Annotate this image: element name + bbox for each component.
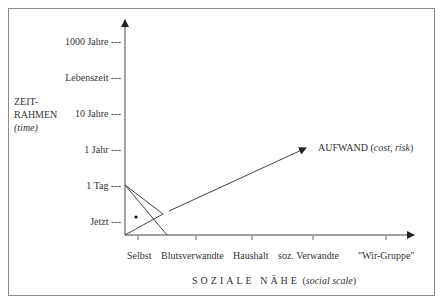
x-tick-haushalt: Haushalt [233, 250, 269, 261]
tag-line-steep [125, 185, 167, 235]
y-tick-1000-jahre: 1000 Jahre --- [65, 36, 121, 47]
cost-line-start [125, 214, 163, 235]
x-tick-wir-gruppe: "Wir-Gruppe" [358, 250, 414, 261]
y-tick-lebenszeit: Lebenszeit --- [65, 72, 121, 83]
x-axis-title-paren-close: ) [353, 275, 356, 286]
tag-line-shallow [125, 185, 163, 214]
self-dot [134, 215, 137, 218]
x-axis-ticks [138, 236, 386, 240]
x-axis-title-main: SOZIALE NÄHE [192, 275, 300, 286]
aufwand-label: AUFWAND (cost, risk) [318, 142, 413, 153]
y-tick-10-jahre: 10 Jahre --- [75, 108, 121, 119]
aufwand-cost: cost [374, 142, 390, 153]
x-tick-blutsverwandte: Blutsverwandte [161, 250, 224, 261]
x-tick-soz-verwandte: soz. Verwandte [278, 250, 339, 261]
aufwand-risk: risk [395, 142, 410, 153]
aufwand-close: ) [410, 142, 413, 153]
aufwand-main: AUFWAND ( [318, 142, 374, 153]
y-axis-title-1: ZEIT- [14, 96, 38, 107]
x-axis-title: SOZIALE NÄHE (social scale) [192, 275, 356, 286]
y-tick-jetzt: Jetzt --- [90, 216, 121, 227]
y-axis-title-3: (time) [14, 122, 38, 133]
x-axis-title-italic: social scale [306, 275, 353, 286]
cost-arrow [169, 148, 306, 211]
y-tick-1-jahr: 1 Jahr --- [84, 144, 121, 155]
y-axis-title-2: RAHMEN [14, 109, 57, 120]
x-tick-selbst: Selbst [127, 250, 151, 261]
y-tick-1-tag: 1 Tag --- [86, 180, 121, 191]
